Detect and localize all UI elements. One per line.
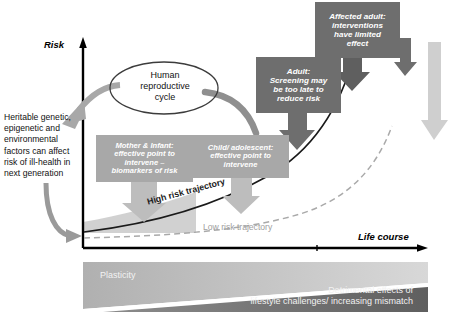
y-axis-label: Risk — [44, 39, 64, 50]
heritable-factors-text: Heritable genetic, epigenetic and enviro… — [4, 112, 71, 178]
heritable-factors-note: Heritable genetic, epigenetic and enviro… — [4, 112, 82, 179]
box-mother-infant-line-4: biomarkers of risk — [112, 167, 178, 176]
detrimental-line-2: lifestyle challenges/ increasing mismatc… — [213, 296, 413, 307]
detrimental-effects-label: Detrimental effects of lifestyle challen… — [213, 285, 413, 308]
box-adult-line-1: Adult: — [270, 67, 328, 76]
box-adult-line-3: be too late to — [270, 85, 328, 94]
box-adult-line-2: Screening may — [270, 76, 328, 85]
box-adult[interactable]: Adult: Screening may be too late to redu… — [256, 57, 341, 113]
plasticity-label: Plasticity — [100, 270, 136, 280]
cycle-arrow-right — [205, 92, 256, 133]
cycle-line-3: cycle — [123, 92, 207, 103]
box-affected-adult[interactable]: Affected adult: interventions have limit… — [315, 2, 400, 58]
box-adult-line-4: reduce risk — [270, 94, 328, 103]
box-affected-adult-line-4: effect — [329, 39, 386, 48]
box-mother-infant[interactable]: Mother & Infant: effective point to inte… — [96, 135, 193, 182]
arrow-right-light — [421, 42, 448, 140]
diagram-canvas: Risk Life course Heritable genetic, epig… — [0, 0, 451, 319]
x-axis-label: Life course — [358, 231, 409, 242]
heritable-hook-arrow — [46, 183, 82, 243]
detrimental-line-1: Detrimental effects of — [213, 285, 413, 296]
x-axis — [83, 244, 428, 252]
cycle-line-1: Human — [123, 70, 207, 81]
box-affected-adult-line-3: have limited — [329, 30, 386, 39]
box-child-adolescent[interactable]: Child/ adolescent: effective point to in… — [192, 135, 289, 178]
cycle-line-2: reproductive — [123, 81, 207, 92]
reproductive-cycle-label: Human reproductive cycle — [123, 70, 207, 103]
low-risk-trajectory-label: Low risk trajectory — [203, 222, 272, 232]
box-affected-adult-line-2: interventions — [329, 21, 386, 30]
box-affected-adult-line-1: Affected adult: — [329, 12, 386, 21]
box-child-adolescent-line-3: intervene — [208, 161, 273, 170]
